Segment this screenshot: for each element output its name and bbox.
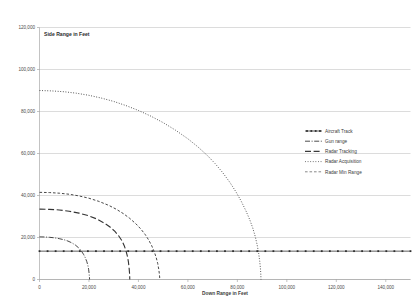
chart-container: 020,00040,00060,00080,000100,000120,000 … <box>0 0 418 305</box>
series-marker <box>71 250 73 252</box>
series-marker <box>55 250 57 252</box>
y-tick-label: 20,000 <box>21 235 35 240</box>
legend-entry-label: Gun range <box>325 139 348 144</box>
legend-swatch-marker <box>319 130 321 132</box>
x-tick-label: 100,000 <box>279 285 296 290</box>
series-marker <box>184 250 186 252</box>
legend-swatch-marker <box>315 130 317 132</box>
series-marker <box>410 250 412 252</box>
series-marker <box>63 250 65 252</box>
series-marker <box>361 250 363 252</box>
series-marker <box>329 250 331 252</box>
series-marker <box>160 250 162 252</box>
series-marker <box>248 250 250 252</box>
series-marker <box>385 250 387 252</box>
series-marker <box>87 250 89 252</box>
series-line <box>40 209 130 279</box>
y-axis-tick-labels: 020,00040,00060,00080,000100,000120,000 <box>18 25 35 282</box>
series-line <box>40 237 90 280</box>
y-tick-label: 0 <box>32 277 35 282</box>
legend-entry-label: Aircraft Track <box>325 129 353 134</box>
series-marker <box>337 250 339 252</box>
y-tick-label: 100,000 <box>18 67 35 72</box>
series-marker <box>224 250 226 252</box>
x-tick-label: 60,000 <box>181 285 195 290</box>
series-marker <box>345 250 347 252</box>
x-tick-label: 120,000 <box>328 285 345 290</box>
series-marker <box>297 250 299 252</box>
legend-swatch-marker <box>310 130 312 132</box>
series-marker <box>119 250 121 252</box>
series-marker <box>240 250 242 252</box>
series-marker <box>39 250 41 252</box>
series-marker <box>264 250 266 252</box>
chart-plot: 020,00040,00060,00080,000100,000120,000 … <box>0 0 418 305</box>
series-marker <box>200 250 202 252</box>
series-marker <box>289 250 291 252</box>
legend-entry-label: Radar Min Range <box>325 170 362 175</box>
series-marker <box>79 250 81 252</box>
legend-entry-label: Radar Tracking <box>325 149 357 154</box>
series-marker <box>176 250 178 252</box>
series-marker <box>127 250 129 252</box>
chart-legend: Aircraft TrackGun rangeRadar TrackingRad… <box>305 129 362 175</box>
series-marker <box>168 250 170 252</box>
y-axis-title: Side Range in Feet <box>44 31 90 37</box>
x-tick-label: 0 <box>38 285 41 290</box>
series-marker <box>232 250 234 252</box>
series-marker <box>402 250 404 252</box>
x-tick-label: 20,000 <box>82 285 96 290</box>
y-tick-label: 80,000 <box>21 109 35 114</box>
y-tick-label: 40,000 <box>21 193 35 198</box>
series-marker <box>377 250 379 252</box>
series-marker <box>111 250 113 252</box>
series-marker <box>103 250 105 252</box>
y-tick-label: 120,000 <box>18 25 35 30</box>
series-marker <box>95 250 97 252</box>
axes <box>37 28 411 283</box>
series-marker <box>208 250 210 252</box>
x-tick-label: 140,000 <box>377 285 394 290</box>
series-marker <box>281 250 283 252</box>
x-tick-label: 40,000 <box>131 285 145 290</box>
y-tick-label: 60,000 <box>21 151 35 156</box>
series-marker <box>152 250 154 252</box>
series-marker <box>192 250 194 252</box>
series-marker <box>393 250 395 252</box>
series-marker <box>321 250 323 252</box>
series-marker <box>135 250 137 252</box>
series-line <box>40 192 160 279</box>
series-marker <box>353 250 355 252</box>
legend-entry-label: Radar Acquisition <box>325 159 362 164</box>
x-tick-label: 80,000 <box>230 285 244 290</box>
series-marker <box>313 250 315 252</box>
series-marker <box>305 250 307 252</box>
x-axis-tick-labels: 020,00040,00060,00080,000100,000120,0001… <box>38 285 394 290</box>
series-marker <box>143 250 145 252</box>
series-marker <box>216 250 218 252</box>
data-series <box>39 91 412 280</box>
x-axis-title: Down Range in Feet <box>202 291 248 296</box>
series-marker <box>272 250 274 252</box>
series-marker <box>369 250 371 252</box>
series-marker <box>47 250 49 252</box>
legend-swatch-marker <box>306 130 308 132</box>
